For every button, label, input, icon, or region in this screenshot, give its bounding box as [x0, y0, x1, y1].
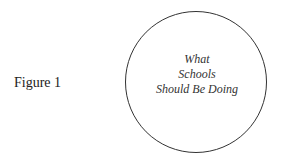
figure-label: Figure 1: [14, 75, 61, 91]
circle-caption-line-1: What: [125, 52, 269, 67]
circle-caption-line-2: Schools: [125, 67, 269, 82]
circle-caption-line-3: Should Be Doing: [125, 82, 269, 97]
circle-caption: What Schools Should Be Doing: [125, 52, 269, 97]
